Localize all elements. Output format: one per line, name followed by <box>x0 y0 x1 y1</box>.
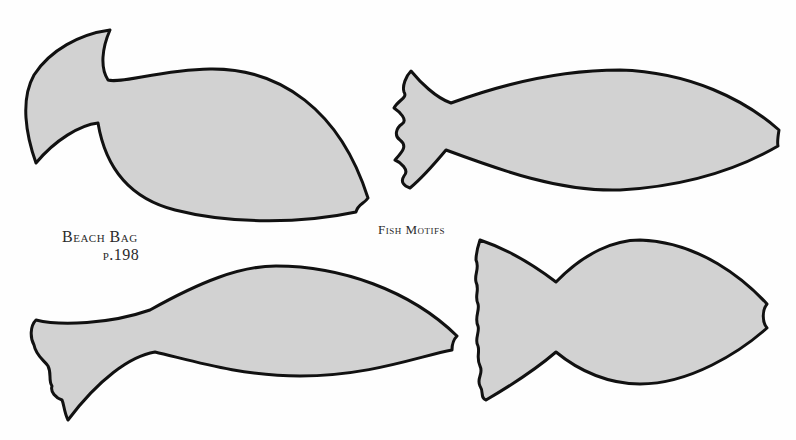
motif-section-title: Fish Motifs <box>378 222 445 238</box>
project-page-reference: p.198 <box>62 246 180 264</box>
fish-motif-3 <box>31 266 457 420</box>
fish-motifs-illustration <box>0 0 796 440</box>
project-title: Beach Bag <box>62 228 138 246</box>
template-page: Beach Bag p.198 Fish Motifs <box>0 0 796 440</box>
fish-motif-2 <box>394 70 779 190</box>
fish-motif-1 <box>26 30 368 221</box>
fish-motif-4 <box>476 240 767 400</box>
